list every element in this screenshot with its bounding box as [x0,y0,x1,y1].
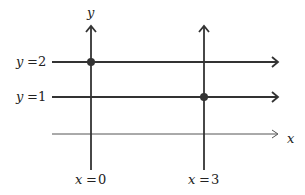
svg-text:3: 3 [211,172,219,187]
svg-text:=: = [27,89,38,104]
svg-text:=: = [199,172,210,187]
svg-text:x: x [75,172,83,187]
horizontal-line-y2 [52,57,278,67]
x-axis-label: x [287,131,295,146]
label-y2: y = 2 [15,54,46,69]
svg-text:y: y [15,89,24,104]
label-y1: y = 1 [15,89,46,104]
diagram-canvas: x y y = 2 y = 1 x = 0 x = [0,0,305,195]
svg-text:2: 2 [38,54,46,69]
svg-text:y: y [15,54,24,69]
point-0-2 [87,58,95,66]
svg-text:0: 0 [98,172,106,187]
svg-text:1: 1 [38,89,46,104]
svg-text:=: = [86,172,97,187]
point-3-1 [200,93,208,101]
label-x3: x = 3 [188,172,219,187]
x-axis [52,130,278,138]
svg-text:x: x [188,172,196,187]
horizontal-line-y1 [52,92,278,102]
y-axis-label: y [86,5,95,20]
label-x0: x = 0 [75,172,106,187]
vertical-line-x0 [86,26,96,170]
svg-text:=: = [27,54,38,69]
